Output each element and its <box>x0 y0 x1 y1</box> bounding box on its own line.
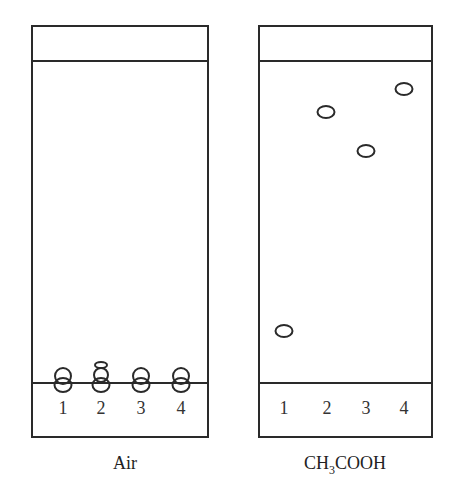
right-plate <box>259 26 432 437</box>
left-lane-1: 1 <box>53 398 73 419</box>
right-spots <box>276 83 413 337</box>
right-lane-2: 2 <box>317 398 337 419</box>
left-lane-3: 3 <box>131 398 151 419</box>
right-lane-4: 4 <box>394 398 414 419</box>
right-lane-1: 1 <box>274 398 294 419</box>
label-cooh: COOH <box>335 453 386 473</box>
left-spots <box>55 362 190 392</box>
right-plate-label: CH3COOH <box>280 453 410 478</box>
right-lane-3: 3 <box>356 398 376 419</box>
left-lane-4: 4 <box>171 398 191 419</box>
label-ch: CH <box>304 453 329 473</box>
left-plate-label: Air <box>100 453 150 474</box>
left-plate <box>32 26 208 437</box>
left-lane-2: 2 <box>91 398 111 419</box>
